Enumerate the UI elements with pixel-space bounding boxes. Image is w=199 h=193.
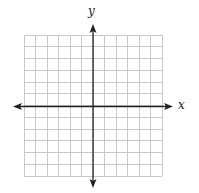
y-axis-label: y xyxy=(88,5,95,17)
coordinate-plane xyxy=(0,0,199,193)
x-axis-label: x xyxy=(178,99,185,111)
